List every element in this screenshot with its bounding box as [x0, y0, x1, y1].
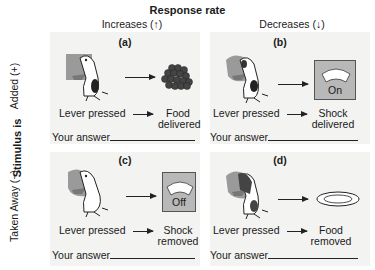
arrow-icon [133, 231, 153, 232]
response-rate-title: Response rate [0, 4, 375, 16]
effect-text: Food removed [308, 225, 354, 247]
meter-status: On [315, 85, 355, 96]
panel-label: (a) [110, 36, 140, 48]
arrow-icon [133, 114, 153, 115]
row-header-taken-away: Taken Away (−) [8, 166, 20, 246]
panel-b: (b) On Lever pressed Shock delivered You… [210, 32, 370, 144]
rat-pressing-lever-icon [64, 164, 114, 219]
shock-meter-icon: On [314, 60, 356, 100]
effect-text: Food delivered [158, 108, 198, 130]
column-header-increases: Increases (↑) [52, 18, 212, 30]
cause-text: Lever pressed [59, 108, 126, 119]
rat-pressing-lever-icon [224, 166, 274, 221]
answer-field[interactable] [110, 132, 195, 141]
panel-a: (a) Lever pressed Food delivered Your an… [50, 32, 200, 144]
food-pellets-icon [160, 62, 194, 90]
panel-label: (c) [110, 154, 140, 166]
answer-field[interactable] [268, 250, 358, 259]
arrow-icon [287, 231, 307, 232]
arrow-icon [278, 199, 308, 200]
arrow-icon [278, 84, 308, 85]
answer-label: Your answer [52, 132, 110, 143]
rat-pressing-lever-icon [224, 50, 274, 105]
empty-dish-icon [315, 190, 361, 208]
panel-d: (d) Lever pressed Food removed Your answ… [210, 152, 370, 266]
cause-text: Lever pressed [59, 225, 126, 236]
meter-status: Off [163, 197, 195, 208]
arrow-icon [125, 77, 155, 78]
cause-text: Lever pressed [213, 108, 280, 119]
effect-text: Shock removed [156, 225, 200, 247]
panel-label: (d) [265, 154, 295, 166]
answer-field[interactable] [268, 132, 358, 141]
panel-c: (c) Off Lever pressed Shock removed Your… [50, 152, 200, 266]
rat-pressing-lever-icon [64, 48, 114, 103]
panel-label: (b) [265, 36, 295, 48]
shock-meter-icon: Off [162, 172, 196, 212]
arrow-icon [126, 196, 156, 197]
answer-label: Your answer [52, 250, 110, 261]
answer-label: Your answer [210, 132, 268, 143]
answer-field[interactable] [110, 250, 195, 259]
row-header-added: Added (+) [8, 56, 20, 116]
effect-text: Shock delivered [310, 108, 356, 130]
column-header-decreases: Decreases (↓) [212, 18, 372, 30]
answer-label: Your answer [210, 250, 268, 261]
cause-text: Lever pressed [213, 225, 280, 236]
arrow-icon [287, 114, 307, 115]
